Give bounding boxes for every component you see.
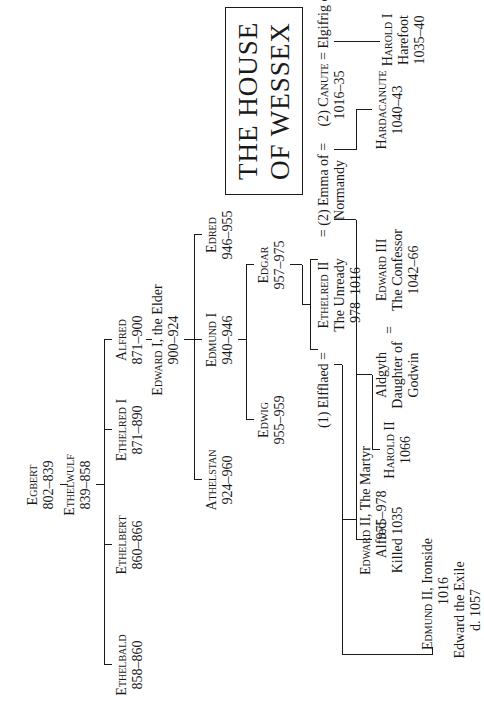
person-harold-ii: Harold II 1066 — [382, 415, 414, 485]
person-athelstan: Athelstan 924–960 — [204, 445, 236, 515]
person-dates: 860–866 — [130, 505, 146, 585]
person-name: Edred — [204, 205, 220, 265]
person-edgar: Edgar 957–975 — [256, 235, 288, 295]
person-edward-iii: Edward III The Confessor 1042–66 — [374, 215, 422, 325]
person-ethelbald: Ethelbald 858–860 — [114, 625, 146, 705]
person-name: Harold II — [382, 415, 398, 485]
connector — [194, 235, 195, 480]
connector — [246, 419, 254, 420]
person-name: Harold I — [380, 0, 396, 80]
person-name: Alfred — [374, 495, 390, 585]
connector — [342, 365, 343, 655]
person-edward-i: Edward I, the Elder 900–924 — [150, 275, 182, 405]
person-name: (1) Elfflaed = — [316, 352, 331, 428]
person-name: Ethelbert — [114, 505, 130, 585]
person-dates: 839–858 — [78, 445, 94, 525]
person-name: Egbert — [25, 450, 41, 520]
person-dates: 1035–40 — [412, 0, 428, 80]
person-note: Killed 1035 — [390, 495, 406, 585]
person-name: Ethelred I — [114, 390, 130, 470]
person-dates: 924–960 — [220, 445, 236, 515]
connector — [290, 264, 302, 265]
connector — [302, 265, 303, 305]
person-epithet: Harefoot — [396, 0, 412, 80]
person-dates: 858–860 — [130, 625, 146, 705]
person-ethelbert: Ethelbert 860–866 — [114, 505, 146, 585]
person-dates: 957–975 — [272, 235, 288, 295]
connector — [96, 484, 104, 485]
person-aldgyth: Aldgyth Daughter of Godwin — [374, 335, 422, 415]
connector — [310, 260, 311, 350]
person-name: Edmund I — [204, 300, 220, 380]
connector — [334, 219, 356, 220]
person-name: Athelstan — [204, 445, 220, 515]
connector — [334, 149, 356, 150]
person-egbert: Egbert 802–839 — [25, 450, 57, 520]
person-ethelred-i: Ethelred I 871–890 — [114, 390, 146, 470]
person-harold-i: Harold I Harefoot 1035–40 — [380, 0, 428, 80]
person-dates: 940–946 — [220, 300, 236, 380]
person-epithet: , The Martyr — [358, 446, 373, 517]
person-name: Alfred — [114, 305, 130, 375]
person-epithet: The Confessor — [390, 215, 406, 325]
connector — [356, 374, 372, 375]
person-name: Edward III — [374, 215, 390, 325]
connector — [194, 479, 202, 480]
person-name: Edwig — [256, 390, 272, 450]
person-elfflaed: (1) Elfflaed = — [316, 340, 332, 440]
person-name: Ethelred II — [316, 245, 332, 345]
person-dates: 1066 — [398, 415, 414, 485]
person-alfred: Alfred 871–900 — [114, 305, 146, 375]
connector — [104, 664, 112, 665]
connector — [104, 544, 112, 545]
connector — [104, 339, 112, 340]
person-note: Godwin — [406, 335, 422, 415]
person-edred: Edred 946–955 — [204, 205, 236, 265]
connector — [372, 449, 380, 450]
person-name: Edward II — [358, 517, 373, 575]
person-dates: 1016 — [436, 530, 452, 650]
person-name: = (2) Emma of = — [316, 130, 332, 250]
connector — [334, 41, 380, 42]
person-edmund-ii: Edmund II, Ironside 1016 — [420, 530, 452, 650]
person-alfred-aetheling: Alfred Killed 1035 — [374, 495, 406, 585]
person-name: Ethelbald — [114, 625, 130, 705]
person-edwig: Edwig 955–959 — [256, 390, 288, 450]
person-name: Edward the Exile — [452, 550, 468, 670]
title-box: THE HOUSE OF WESSEX — [225, 7, 303, 195]
connector — [246, 264, 254, 265]
person-name: = Elgifrig of Mercia — [316, 0, 331, 60]
person-epithet: The Unready — [332, 245, 348, 345]
equals-sign: = — [382, 326, 397, 334]
person-edward-the-exile: Edward the Exile d. 1057 — [452, 550, 484, 670]
connector — [104, 429, 112, 430]
person-name: Edward I — [150, 342, 165, 395]
person-dates: 802–839 — [41, 450, 57, 520]
person-dates: d. 1057 — [468, 550, 484, 670]
person-canute: (2) Canute 1016–35 — [316, 55, 348, 135]
connector — [356, 109, 372, 110]
person-epithet: , the Elder — [150, 284, 165, 342]
connector — [104, 340, 105, 665]
person-dates: 871–900 — [130, 305, 146, 375]
person-dates: 955–959 — [272, 390, 288, 450]
connector — [342, 654, 432, 655]
person-name: Edgar — [256, 235, 272, 295]
connector — [238, 339, 246, 340]
connector — [356, 110, 357, 150]
connector — [194, 339, 202, 340]
person-name: (2) Canute — [316, 55, 332, 135]
person-dates: 1042–66 — [406, 215, 422, 325]
person-ethelwulf: Ethelwulf 839–858 — [62, 445, 94, 525]
connector — [184, 339, 194, 340]
person-name: Ethelwulf — [62, 445, 78, 525]
connector — [342, 519, 357, 520]
person-note: Daughter of — [390, 335, 406, 415]
connector — [194, 234, 202, 235]
person-dates: 1016–35 — [332, 55, 348, 135]
connector — [334, 364, 342, 365]
connector — [302, 304, 310, 305]
person-elgifrig: = Elgifrig of Mercia — [316, 0, 332, 60]
title-line-1: THE HOUSE — [232, 22, 264, 180]
